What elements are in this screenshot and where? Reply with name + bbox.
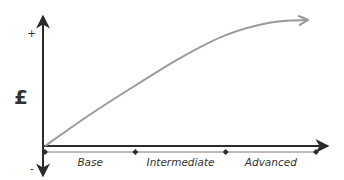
- category-label: Advanced: [244, 156, 297, 168]
- y-axis-label: £: [14, 85, 28, 109]
- y-negative-label: -: [30, 162, 34, 175]
- category-label: Base: [77, 156, 103, 168]
- boundary-marker: [313, 149, 319, 155]
- series-line-value: [45, 20, 307, 146]
- y-positive-label: +: [27, 27, 36, 40]
- category-label: Intermediate: [147, 156, 215, 168]
- boundary-marker: [223, 149, 229, 155]
- boundary-marker: [132, 149, 138, 155]
- chart: + £ - BaseIntermediateAdvanced: [0, 0, 344, 180]
